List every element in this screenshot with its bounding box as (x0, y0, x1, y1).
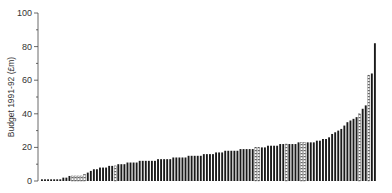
bar (62, 178, 64, 181)
bar (218, 152, 220, 181)
bar (209, 154, 211, 181)
bar (362, 109, 364, 181)
bar (340, 129, 342, 181)
bar (172, 157, 174, 181)
bar (188, 156, 190, 181)
bar (295, 144, 297, 181)
bar (68, 176, 70, 181)
bar (334, 132, 336, 181)
bar (279, 144, 281, 181)
bar (185, 157, 187, 181)
bar (130, 163, 132, 181)
bar (255, 147, 257, 181)
bar (243, 149, 245, 181)
bar (331, 134, 333, 181)
bar (273, 146, 275, 181)
y-tick-label: 20 (22, 142, 32, 152)
bar (72, 176, 74, 181)
bar (65, 178, 67, 181)
bar (356, 117, 358, 181)
bar (197, 156, 199, 181)
bar (285, 144, 287, 181)
bar (221, 152, 223, 181)
bar (337, 131, 339, 181)
bar (102, 168, 104, 181)
bar (175, 157, 177, 181)
bar (288, 144, 290, 181)
bar (169, 159, 171, 181)
bar (322, 139, 324, 181)
y-axis-title: Budget 1991-92 (£m) (6, 57, 16, 137)
bar (105, 168, 107, 181)
bar (301, 142, 303, 181)
y-tick-label: 100 (17, 8, 32, 18)
bar (178, 157, 180, 181)
bar (47, 179, 49, 181)
bar (154, 161, 156, 181)
bar (319, 141, 321, 181)
bar (78, 176, 80, 181)
bar (282, 144, 284, 181)
bar (56, 179, 58, 181)
bar (142, 161, 144, 181)
bar (298, 142, 300, 181)
bar (114, 166, 116, 181)
bar (191, 156, 193, 181)
bar-chart: 020406080100 Budget 1991-92 (£m) (0, 0, 392, 193)
bar (325, 139, 327, 181)
bar (359, 114, 361, 181)
bar (160, 159, 162, 181)
bar (233, 151, 235, 181)
bar (41, 179, 43, 181)
y-tick-label: 80 (22, 42, 32, 52)
bar (166, 159, 168, 181)
bar (350, 121, 352, 181)
bar (316, 141, 318, 181)
bars (41, 43, 376, 181)
y-tick-label: 60 (22, 75, 32, 85)
bar (182, 157, 184, 181)
bar (246, 149, 248, 181)
bar (136, 163, 138, 181)
bar (258, 147, 260, 181)
bar (328, 137, 330, 181)
bar (236, 151, 238, 181)
bar (53, 179, 55, 181)
bar (194, 156, 196, 181)
bar (123, 164, 125, 181)
bar (365, 105, 367, 181)
bar (120, 164, 122, 181)
bar (304, 142, 306, 181)
y-axis: 020406080100 (17, 8, 38, 186)
bar (353, 119, 355, 181)
bar (59, 179, 61, 181)
bar (368, 75, 370, 181)
bar (93, 169, 95, 181)
bar (108, 166, 110, 181)
bar (206, 154, 208, 181)
bar (276, 146, 278, 181)
bar (212, 154, 214, 181)
bar (96, 169, 98, 181)
bar (307, 142, 309, 181)
bar (139, 161, 141, 181)
bar (227, 151, 229, 181)
bar (264, 147, 266, 181)
bar (224, 151, 226, 181)
bar (240, 149, 242, 181)
bar (87, 173, 89, 181)
bar (249, 149, 251, 181)
bar (44, 179, 46, 181)
bar (157, 159, 159, 181)
bar (270, 146, 272, 181)
bar (252, 149, 254, 181)
bar (374, 43, 376, 181)
y-tick-label: 40 (22, 109, 32, 119)
bar (230, 151, 232, 181)
bar (127, 163, 129, 181)
bar (75, 176, 77, 181)
bar (261, 147, 263, 181)
bar (90, 171, 92, 181)
bar (163, 159, 165, 181)
bar (148, 161, 150, 181)
